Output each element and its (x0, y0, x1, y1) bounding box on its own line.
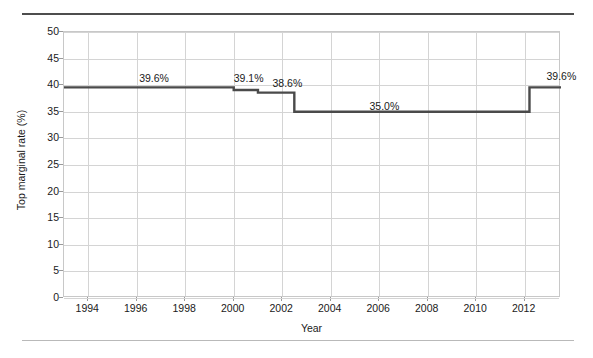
plot-area: 39.6%39.1%38.6%35.0%39.6% (63, 31, 560, 297)
data-point-label: 39.6% (546, 71, 576, 82)
y-axis-tick-label: 10 (23, 239, 59, 250)
y-axis-tick-label: 40 (23, 79, 59, 90)
y-axis-tick-label: 30 (23, 132, 59, 143)
y-axis-tick-label: 50 (23, 26, 59, 37)
y-axis-tick-label: 45 (23, 52, 59, 63)
y-axis-title: Top marginal rate (%) (15, 65, 27, 255)
y-axis-tick-label: 20 (23, 185, 59, 196)
y-axis-tick-label: 0 (23, 292, 59, 303)
y-axis-tick-mark (59, 297, 63, 298)
data-point-label: 39.1% (234, 73, 264, 84)
y-axis-tick-label: 5 (23, 265, 59, 276)
data-point-label: 38.6% (272, 78, 302, 89)
x-axis-tick-labels: 1994199619982000200220042006200820102012 (63, 303, 560, 319)
x-axis-tick-label: 2012 (494, 303, 554, 314)
data-point-label: 39.6% (139, 73, 169, 84)
figure-container: 05101520253035404550 39.6%39.1%38.6%35.0… (0, 0, 593, 358)
data-labels: 39.6%39.1%38.6%35.0%39.6% (64, 32, 559, 296)
gridline-horizontal (64, 298, 559, 299)
top-divider-rule (22, 13, 574, 15)
x-axis-title: Year (63, 322, 560, 334)
bottom-divider-rule (22, 340, 574, 341)
y-axis-tick-label: 15 (23, 212, 59, 223)
data-point-label: 35.0% (369, 101, 399, 112)
y-axis-tick-label: 25 (23, 159, 59, 170)
y-axis-tick-label: 35 (23, 106, 59, 117)
